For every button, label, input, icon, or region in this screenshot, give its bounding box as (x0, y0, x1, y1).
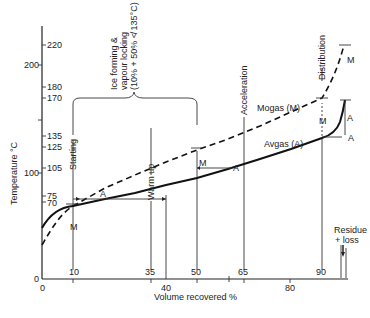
y-tick-70: 70 (47, 198, 57, 208)
x-val-65: 65 (238, 267, 248, 277)
marker-m-end: M (347, 55, 355, 65)
x-label-80: 80 (285, 283, 295, 293)
residue-label-2: + loss (335, 235, 359, 245)
x-val-50: 50 (191, 267, 201, 277)
avgas-curve (42, 100, 345, 228)
marker-a-10-40: A (100, 189, 106, 199)
y-axis-title: Temperature °C (9, 141, 19, 205)
y-tick-170: 170 (47, 93, 62, 103)
x-axis-title: Volume recovered % (154, 292, 237, 302)
marker-m-90: M (319, 116, 327, 126)
distillation-chart: 200 100 0 220 180 170 135 125 105 75 70 … (0, 0, 370, 318)
y-tick-220: 220 (47, 40, 62, 50)
mogas-label: Mogas (M) (257, 103, 300, 113)
y-label-0: 0 (34, 274, 39, 284)
avgas-label: Avgas (A) (264, 139, 303, 149)
x-label-0: 0 (40, 283, 45, 293)
residue-label-1: Residue (334, 225, 367, 235)
marker-m-50: M (199, 158, 207, 168)
phase-starting: Starting (68, 139, 78, 170)
arrow-head-icon (162, 197, 166, 201)
x-val-35: 35 (145, 267, 155, 277)
y-label-100: 100 (24, 168, 39, 178)
y-tick-180: 180 (47, 82, 62, 92)
arrow-head-icon (76, 197, 80, 201)
phase-acceleration: Acceleration (239, 65, 249, 115)
y-label-200: 200 (24, 60, 39, 70)
phase-warmup: Warm up (146, 164, 156, 200)
marker-a-end: A (347, 113, 353, 123)
phase-distribution: Distribution (317, 35, 327, 80)
y-tick-125: 125 (47, 142, 62, 152)
ice-label-2: vapour locking (119, 32, 129, 90)
residue-arrow-head-icon (341, 252, 345, 257)
x-val-10: 10 (69, 267, 79, 277)
y-tick-105: 105 (47, 163, 62, 173)
marker-a-90: A (348, 133, 354, 143)
y-tick-135: 135 (47, 131, 62, 141)
ice-forming-brace (73, 92, 197, 135)
x-val-90: 90 (316, 267, 326, 277)
marker-a-65: A (233, 163, 239, 173)
ice-label-3: (10% + 50% ≮ 135°C) A (129, 0, 139, 90)
marker-m-10: M (70, 222, 78, 232)
ice-label-1: Ice forming & (109, 37, 119, 90)
